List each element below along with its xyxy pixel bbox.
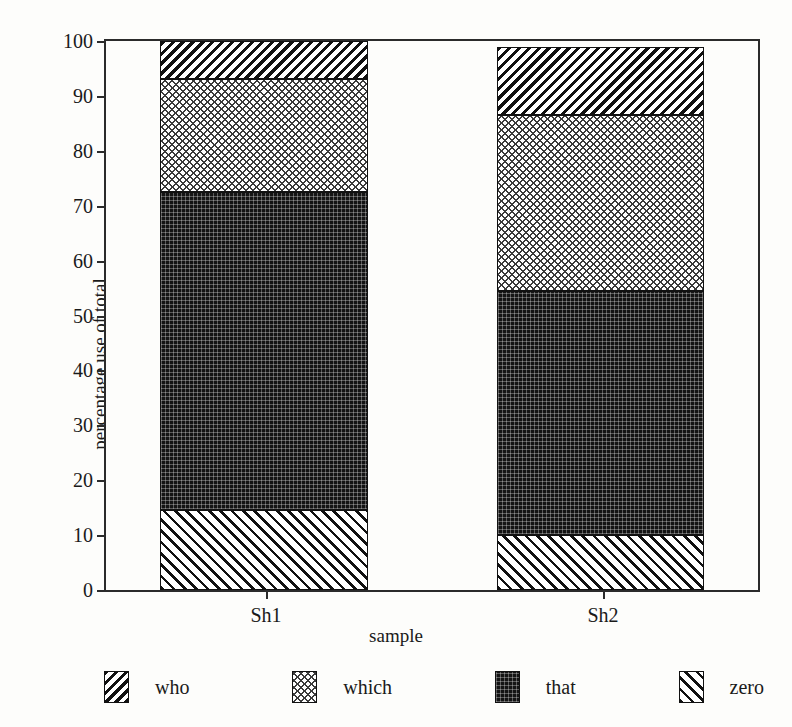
bar-sh1-segment-that[interactable] — [160, 192, 368, 510]
y-tick-label: 10 — [73, 525, 93, 545]
legend-swatch-who-icon — [104, 671, 129, 703]
bar-sh1-segment-zero[interactable] — [160, 510, 368, 590]
y-tick-label: 30 — [73, 415, 93, 435]
y-tick-label: 20 — [73, 470, 93, 490]
bar-sh1[interactable] — [160, 41, 368, 590]
y-tick-mark — [97, 370, 106, 372]
legend-entry-that[interactable]: that — [495, 671, 576, 703]
x-tick-mark-sh2 — [603, 590, 605, 599]
legend-swatch-which-icon — [292, 671, 317, 703]
x-tick-mark-sh1 — [266, 590, 268, 599]
y-tick-label: 70 — [73, 196, 93, 216]
x-tick-label-sh2: Sh2 — [587, 604, 618, 627]
y-tick-label: 40 — [73, 360, 93, 380]
y-tick-label: 80 — [73, 141, 93, 161]
y-tick-mark — [97, 151, 106, 153]
y-tick-mark — [97, 480, 106, 482]
bar-sh2[interactable] — [497, 41, 704, 590]
legend-label-that: that — [546, 676, 576, 699]
bar-sh2-segment-who[interactable] — [497, 47, 704, 116]
chart-figure: percentage use of total 100 90 80 70 60 … — [0, 0, 792, 727]
y-tick-label: 0 — [83, 580, 93, 600]
y-tick-label: 100 — [63, 31, 93, 51]
plot-area: 100 90 80 70 60 50 40 30 — [104, 39, 760, 592]
legend-swatch-that-icon — [495, 671, 520, 703]
legend-entry-who[interactable]: who — [104, 671, 189, 703]
bar-sh1-segment-which[interactable] — [160, 79, 368, 192]
x-axis-title: sample — [0, 625, 792, 647]
y-tick-mark — [97, 535, 106, 537]
y-tick-mark — [97, 425, 106, 427]
y-tick-mark — [97, 316, 106, 318]
y-tick-mark — [97, 590, 106, 592]
y-tick-label: 90 — [73, 86, 93, 106]
y-tick-mark — [97, 261, 106, 263]
y-tick-label: 60 — [73, 251, 93, 271]
chart-legend: who which that zero — [104, 665, 764, 709]
y-tick-mark — [97, 41, 106, 43]
bar-sh2-segment-which[interactable] — [497, 115, 704, 291]
y-tick-label: 50 — [73, 306, 93, 326]
legend-label-who: who — [155, 676, 189, 699]
legend-swatch-zero-icon — [679, 671, 704, 703]
y-tick-mark — [97, 96, 106, 98]
bar-sh2-segment-zero[interactable] — [497, 535, 704, 590]
bar-sh1-segment-who[interactable] — [160, 41, 368, 79]
legend-label-which: which — [343, 676, 392, 699]
legend-label-zero: zero — [730, 676, 764, 699]
x-tick-label-sh1: Sh1 — [250, 604, 281, 627]
bar-sh2-segment-that[interactable] — [497, 291, 704, 535]
legend-entry-zero[interactable]: zero — [679, 671, 764, 703]
legend-entry-which[interactable]: which — [292, 671, 392, 703]
y-tick-mark — [97, 206, 106, 208]
